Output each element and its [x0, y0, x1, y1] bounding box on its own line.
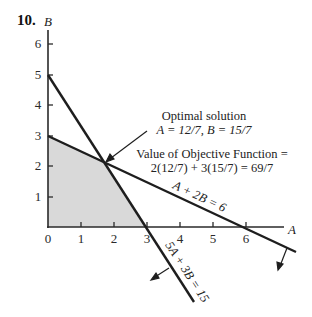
svg-text:0: 0	[45, 231, 52, 246]
optimal-solution-values: A = 12/7, B = 15/7	[155, 123, 252, 137]
objective-value-line1: Value of Objective Function =	[136, 147, 287, 161]
b-axis-label: B	[44, 14, 52, 29]
svg-text:1: 1	[78, 231, 85, 246]
a-axis-tick-labels: 0 1 2 3 4 5 6	[45, 231, 250, 246]
direction-arrow-5a-plus-3b	[151, 268, 169, 280]
svg-text:5: 5	[210, 231, 217, 246]
svg-text:4: 4	[35, 97, 42, 112]
constraint-label-5a-plus-3b: 5A + 3B = 15	[162, 239, 212, 305]
svg-text:6: 6	[35, 36, 42, 51]
svg-text:1: 1	[35, 189, 42, 204]
svg-text:5: 5	[35, 67, 42, 82]
b-axis-tick-labels: 1 2 3 4 5 6	[35, 36, 42, 204]
svg-text:3: 3	[35, 128, 42, 143]
feasible-region	[48, 136, 147, 227]
objective-value-line2: 2(12/7) + 3(15/7) = 69/7	[151, 161, 273, 175]
svg-text:2: 2	[35, 158, 42, 173]
direction-arrow-a-plus-2b	[277, 248, 287, 270]
optimal-solution-title: Optimal solution	[162, 109, 247, 123]
lp-graph: 1 2 3 4 5 6 0 1 2 3 4 5 6 B A 10. Optima…	[0, 0, 312, 317]
svg-text:2: 2	[111, 231, 118, 246]
problem-number: 10.	[17, 12, 36, 28]
svg-text:3: 3	[144, 231, 151, 246]
svg-text:6: 6	[243, 231, 250, 246]
a-axis-label: A	[287, 222, 296, 237]
